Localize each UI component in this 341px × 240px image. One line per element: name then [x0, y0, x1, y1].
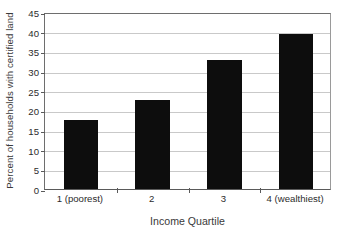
- y-axis-tick-label: 20: [28, 106, 39, 117]
- bar: [64, 120, 98, 189]
- y-axis-tick-label: 0: [34, 185, 39, 196]
- x-axis-tick-label: 3: [221, 193, 226, 204]
- y-axis-title-text: Percent of households with certified lan…: [4, 12, 15, 188]
- y-axis-tick-label: 40: [28, 27, 39, 38]
- x-axis-tick-label: 1 (poorest): [57, 193, 103, 204]
- bar: [207, 60, 241, 189]
- y-axis-title: Percent of households with certified lan…: [0, 0, 18, 200]
- bar: [279, 34, 313, 189]
- x-axis-category-ticks: [45, 184, 330, 189]
- x-axis-tick-label: 2: [149, 193, 154, 204]
- bars-layer: [45, 14, 330, 189]
- y-axis-tick-label: 25: [28, 86, 39, 97]
- y-axis-tick-label: 5: [34, 165, 39, 176]
- x-axis-title: Income Quartile: [44, 215, 331, 227]
- y-axis-tick-label: 15: [28, 126, 39, 137]
- y-axis-tick-label: 45: [28, 8, 39, 19]
- x-axis-tick-label: 4 (wealthiest): [267, 193, 324, 204]
- plot-area: [44, 13, 331, 190]
- y-axis-tick-label: 30: [28, 67, 39, 78]
- y-axis-tick-label: 35: [28, 47, 39, 58]
- y-axis-tick-labels: 051015202530354045: [18, 13, 42, 190]
- bar: [135, 100, 169, 189]
- bar-chart-figure: Percent of households with certified lan…: [0, 0, 341, 240]
- x-axis-tick-labels: 1 (poorest)234 (wealthiest): [44, 193, 331, 209]
- y-axis-tick-mark: [41, 191, 45, 192]
- y-axis-tick-label: 10: [28, 145, 39, 156]
